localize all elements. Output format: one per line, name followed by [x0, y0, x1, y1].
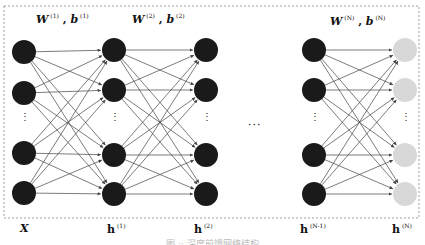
- weight-label-2: W(2) , b(2): [132, 12, 185, 26]
- connection-edge: [322, 100, 397, 185]
- neuron-node-input: [12, 141, 36, 165]
- neuron-node-h1: [102, 38, 126, 62]
- connection-edge: [32, 61, 106, 145]
- connection-edge: [36, 90, 101, 92]
- connection-edge: [125, 55, 194, 85]
- neuron-node-hN: [393, 143, 417, 167]
- connection-edge: [120, 61, 199, 184]
- neuron-node-hN-1: [302, 143, 326, 167]
- neuron-node-h2: [194, 78, 218, 102]
- horizontal-ellipsis: ···: [248, 119, 262, 132]
- neuron-node-hN: [393, 38, 417, 62]
- connection-edge: [120, 60, 199, 183]
- neuron-node-input: [12, 181, 36, 205]
- layer-label-hN: h(N): [392, 222, 412, 236]
- connection-edge: [36, 153, 101, 154]
- connection-edge: [325, 160, 393, 189]
- vertical-ellipsis-h1: ⋮: [110, 115, 118, 119]
- connection-edge: [125, 160, 194, 189]
- connection-edge: [32, 102, 105, 184]
- vertical-ellipsis-input: ⋮: [20, 115, 28, 119]
- vertical-ellipsis-hN: ⋮: [401, 115, 409, 119]
- connection-edge: [125, 55, 194, 85]
- connection-edge: [325, 55, 393, 85]
- layer-label-h2: h(2): [194, 222, 213, 236]
- layer-label-input: X: [20, 222, 29, 235]
- figure-caption: 图 ·· 深度前馈网络结构: [130, 238, 295, 245]
- neuron-node-input: [12, 40, 36, 64]
- connection-edge: [122, 60, 198, 146]
- neuron-node-hN-1: [302, 182, 326, 206]
- vertical-ellipsis-h2: ⋮: [202, 115, 210, 119]
- neuron-node-hN-1: [302, 78, 326, 102]
- neuron-node-hN-1: [302, 38, 326, 62]
- neuron-node-h1: [102, 182, 126, 206]
- neuron-node-hN: [393, 78, 417, 102]
- connection-edges: [30, 50, 398, 194]
- connection-edge: [32, 60, 106, 144]
- neuron-node-h1: [102, 143, 126, 167]
- connection-edge: [36, 193, 101, 194]
- connection-edge: [34, 100, 103, 148]
- connection-edge: [325, 55, 393, 85]
- neuron-node-h2: [194, 182, 218, 206]
- connection-edge: [125, 160, 194, 189]
- vertical-ellipsis-hN-1: ⋮: [310, 115, 318, 119]
- network-graph: [0, 0, 425, 245]
- connection-edge: [320, 61, 398, 184]
- connection-edge: [320, 60, 398, 183]
- weight-label-n: W(N) , b(N): [330, 14, 385, 28]
- neuron-node-h2: [194, 38, 218, 62]
- neuron-nodes: [12, 38, 417, 206]
- connection-edge: [322, 59, 397, 145]
- connection-edge: [36, 50, 101, 51]
- connection-edge: [322, 60, 397, 146]
- neuron-node-hN: [393, 182, 417, 206]
- connection-edge: [122, 59, 198, 145]
- neuron-node-input: [12, 81, 36, 105]
- neuron-node-h1: [102, 78, 126, 102]
- layer-label-hN-1: h(N-1): [300, 222, 326, 236]
- weight-label-1: W(1) , b(1): [36, 12, 89, 26]
- layer-label-h1: h(1): [107, 222, 126, 236]
- connection-edge: [325, 160, 393, 189]
- connection-edge: [35, 56, 102, 88]
- connection-edge: [122, 100, 197, 185]
- neuron-node-h2: [194, 143, 218, 167]
- network-diagram: W(1) , b(1) W(2) , b(2) W(N) , b(N) ⋮ ⋮ …: [0, 0, 425, 245]
